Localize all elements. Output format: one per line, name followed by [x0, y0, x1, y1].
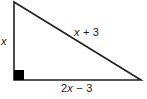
label-horizontal-leg: 2x − 3 [61, 83, 93, 94]
label-horizontal-leg-rest: − 3 [73, 82, 92, 94]
triangle-outline [14, 2, 141, 80]
right-angle-square-icon [14, 70, 24, 80]
label-hypotenuse-rest: + 3 [80, 26, 99, 38]
triangle-figure: x x + 3 2x − 3 [0, 0, 147, 99]
label-vertical-leg: x [1, 36, 7, 47]
label-hypotenuse: x + 3 [74, 27, 99, 38]
